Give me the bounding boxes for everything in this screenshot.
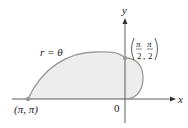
x-axis-arrow-icon bbox=[170, 97, 176, 102]
frac-num-2: π bbox=[147, 39, 152, 49]
frac-comma: , bbox=[143, 51, 145, 61]
curve-label: r = θ bbox=[40, 47, 63, 58]
paren-right bbox=[155, 38, 158, 60]
y-axis-arrow-icon bbox=[123, 18, 128, 24]
y-axis-label: y bbox=[122, 5, 127, 16]
paren-left bbox=[132, 38, 135, 60]
point-pi bbox=[26, 97, 30, 101]
frac-den-2: 2 bbox=[148, 51, 153, 61]
point-pi-label: (π, π) bbox=[14, 104, 38, 115]
frac-num-1: π bbox=[136, 39, 141, 49]
frac-den-1: 2 bbox=[137, 51, 142, 61]
origin-label: 0 bbox=[114, 103, 120, 114]
x-axis-label: x bbox=[178, 94, 183, 105]
point-pi-half bbox=[123, 56, 127, 60]
